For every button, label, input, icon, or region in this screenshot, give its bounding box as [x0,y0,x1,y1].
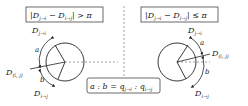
right-label-dij-mean: D(i, j) [211,49,229,60]
left-radius-ij-mean [30,62,65,69]
right-radius-ij [177,62,186,79]
right-label-a: a [200,39,204,47]
left-label-dji: Dj→i [31,26,46,37]
diagram-canvas: |Dj→i − Di→j| > π Dj→i a D(i, j) b Di→j … [0,0,248,106]
left-label-dij: Di→j [33,89,48,100]
left-label-b: b [40,76,45,84]
ratio-box-group: a : b = qj→i : qi→j [87,78,160,93]
left-radius-ji [55,45,65,62]
left-radius-ij [58,62,65,79]
right-label-dji: Dj→i [187,26,202,37]
left-label-dij-mean: D(i, j) [5,68,23,79]
right-label-dij: Di→j [194,89,209,100]
left-label-a: a [35,46,39,54]
right-radius-ij-mean [177,54,210,62]
right-label-b: b [205,68,210,76]
